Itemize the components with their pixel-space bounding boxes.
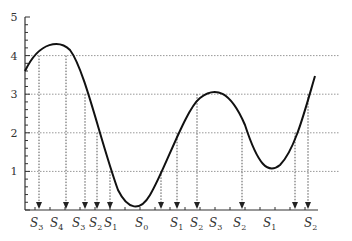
state-label: S2 [233, 216, 246, 232]
state-label: S1 [170, 216, 183, 232]
state-label: S2 [304, 216, 317, 232]
state-label: S1 [104, 216, 117, 232]
state-label: S3 [209, 216, 222, 232]
arrow-head-icon [107, 202, 113, 209]
y-tick-label: 3 [11, 88, 18, 101]
state-label: S3 [30, 216, 43, 232]
arrow-head-icon [239, 202, 245, 209]
data-curve [25, 44, 315, 206]
arrow-head-icon [174, 202, 180, 209]
arrow-head-icon [158, 202, 164, 209]
y-tick-label: 1 [11, 165, 18, 178]
arrow-head-icon [36, 202, 42, 209]
arrow-head-icon [292, 202, 298, 209]
arrow-head-icon [63, 202, 69, 209]
grid-lines [25, 56, 340, 172]
y-tick-label: 4 [11, 50, 18, 63]
chart: 12345 S3S4S3S2S1S0S1S2S3S2S1S2 [0, 0, 352, 241]
arrow-head-icon [82, 202, 88, 209]
projection-arrows [36, 56, 311, 209]
y-tick-label: 5 [11, 11, 18, 24]
state-label: S1 [263, 216, 276, 232]
axes [25, 17, 318, 210]
x-state-labels: S3S4S3S2S1S0S1S2S3S2S1S2 [30, 216, 317, 232]
state-label: S0 [135, 216, 148, 232]
y-tick-labels: 12345 [11, 11, 18, 178]
state-label: S3 [72, 216, 85, 232]
arrow-head-icon [194, 202, 200, 209]
arrow-head-icon [305, 202, 311, 209]
state-label: S4 [50, 216, 63, 232]
state-label: S2 [89, 216, 102, 232]
y-tick-label: 2 [11, 127, 18, 140]
state-label: S2 [190, 216, 203, 232]
